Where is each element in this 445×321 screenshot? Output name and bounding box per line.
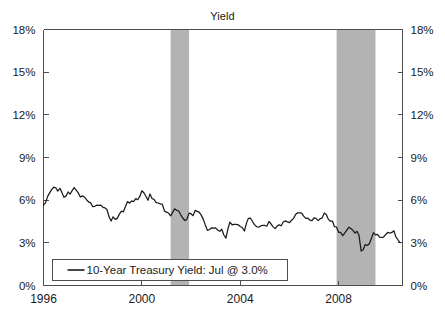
- y-axis-tick-label-right: 12%: [411, 109, 434, 121]
- recession-bands: [171, 30, 376, 286]
- y-axis-tick-label-right: 6%: [411, 194, 428, 206]
- y-axis-tick-label-left: 6%: [19, 194, 36, 206]
- yield-chart: Yield 0%0%3%3%6%6%9%9%12%12%15%15%18%18%…: [0, 0, 445, 321]
- x-axis-tick-label: 2004: [227, 292, 254, 306]
- x-axis-tick-label: 2008: [325, 292, 352, 306]
- chart-plot-area: 0%0%3%3%6%6%9%9%12%12%15%15%18%18%199620…: [0, 0, 445, 321]
- y-axis-tick-label-right: 15%: [411, 66, 434, 78]
- y-axis-tick-label-right: 3%: [411, 237, 428, 249]
- x-axis-tick-label: 2000: [129, 292, 156, 306]
- recession-band: [337, 30, 376, 286]
- y-axis-tick-label-right: 9%: [411, 152, 428, 164]
- recession-band: [171, 30, 189, 286]
- y-axis-tick-label-right: 0%: [411, 280, 428, 292]
- y-axis-tick-label-left: 0%: [19, 280, 36, 292]
- x-axis-tick-label: 1996: [30, 292, 57, 306]
- y-axis-tick-label-left: 12%: [12, 109, 35, 121]
- y-axis-tick-label-right: 18%: [411, 24, 434, 36]
- legend-label: 10-Year Treasury Yield: Jul @ 3.0%: [87, 264, 268, 276]
- y-axis-tick-label-left: 15%: [12, 66, 35, 78]
- y-axis-tick-label-left: 3%: [19, 237, 36, 249]
- y-axis-tick-label-left: 18%: [12, 24, 35, 36]
- y-axis-tick-label-left: 9%: [19, 152, 36, 164]
- chart-legend: 10-Year Treasury Yield: Jul @ 3.0%: [53, 260, 288, 281]
